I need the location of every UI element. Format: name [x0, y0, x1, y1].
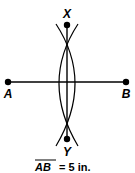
label-b: B [122, 87, 131, 101]
label-y: Y [63, 145, 72, 159]
point-y [64, 136, 70, 142]
label-a: A [3, 87, 13, 101]
label-x: X [62, 7, 72, 21]
caption-value: = 5 in. [59, 161, 91, 173]
point-a [5, 79, 11, 85]
point-x [64, 22, 70, 28]
construction-diagram: X A B Y AB = 5 in. [0, 0, 135, 173]
point-b [123, 79, 129, 85]
caption-segment: AB [34, 161, 51, 173]
